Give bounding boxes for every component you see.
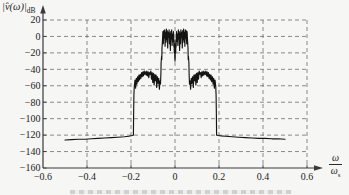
y-tick-label: −20 [25,47,41,58]
y-tick-label: −40 [25,64,41,75]
y-axis-label-main: |v̂(ω)| [2,1,27,12]
y-tick-label: 0 [36,31,41,42]
x-axis-label-denominator: ωs [329,165,342,179]
y-tick-label: −100 [20,113,41,124]
y-axis-label-sub: dB [27,6,36,15]
y-tick-label: −120 [20,129,41,140]
y-tick-label: −60 [25,80,41,91]
x-tick-label: 0.2 [213,171,226,182]
y-tick-label: −80 [25,97,41,108]
x-axis-label: ω ωs [329,153,342,179]
x-tick-label: −0.2 [122,171,140,182]
spectrum-plot-canvas: 200−20−40−60−80−100−120−140−160−0.6−0.4−… [0,0,349,195]
x-axis-arrowhead [314,165,323,171]
y-tick-label: −140 [20,146,41,157]
y-axis-label: |v̂(ω)|dB [2,1,36,15]
x-tick-label: −0.4 [78,171,96,182]
x-tick-label: −0.6 [34,171,52,182]
axes [40,5,323,171]
partial-caption-fragment [70,190,292,194]
y-tick-label: 20 [31,14,41,25]
x-tick-label: 0.4 [257,171,270,182]
x-tick-label: 0.6 [301,171,314,182]
grid-lines [43,20,307,168]
spectrum-figure: 200−20−40−60−80−100−120−140−160−0.6−0.4−… [0,0,349,195]
x-axis-label-numerator: ω [329,153,342,164]
x-tick-label: 0 [173,171,178,182]
y-axis-arrowhead [40,5,46,14]
